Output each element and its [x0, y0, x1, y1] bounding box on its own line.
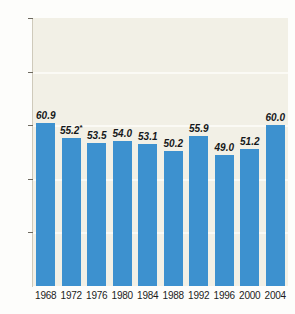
bar [189, 136, 208, 286]
bar-group: 53.5 [87, 18, 106, 286]
bar-value-label: 60.0 [252, 112, 295, 123]
y-axis-tick-mark [28, 18, 33, 19]
bar-group: 51.2 [240, 18, 259, 286]
x-axis: 1968197219761980198419881992199620002004 [33, 290, 288, 310]
bar-group: 55.2* [62, 18, 81, 286]
bar [62, 138, 81, 286]
bar [113, 141, 132, 286]
bar-chart-figure: 60.955.2*53.554.053.150.255.949.051.260.… [0, 0, 295, 314]
plot-area: 60.955.2*53.554.053.150.255.949.051.260.… [33, 18, 288, 286]
y-axis-tick-mark [28, 232, 33, 233]
y-axis-tick-mark [28, 125, 33, 126]
y-axis-tick-mark [28, 179, 33, 180]
bar-group: 49.0 [215, 18, 234, 286]
bar [215, 155, 234, 286]
bar [164, 151, 183, 286]
bar-group: 60.9 [36, 18, 55, 286]
bar-group: 60.0 [266, 18, 285, 286]
x-axis-tick-label: 2004 [260, 290, 290, 301]
bar-group: 54.0 [113, 18, 132, 286]
y-axis-line [32, 18, 33, 287]
bar [87, 143, 106, 286]
bar [240, 149, 259, 286]
bar-group: 53.1 [138, 18, 157, 286]
bar-group: 50.2 [164, 18, 183, 286]
bar [266, 125, 285, 286]
y-axis-tick-mark [28, 72, 33, 73]
bar [138, 144, 157, 286]
bar [36, 123, 55, 286]
